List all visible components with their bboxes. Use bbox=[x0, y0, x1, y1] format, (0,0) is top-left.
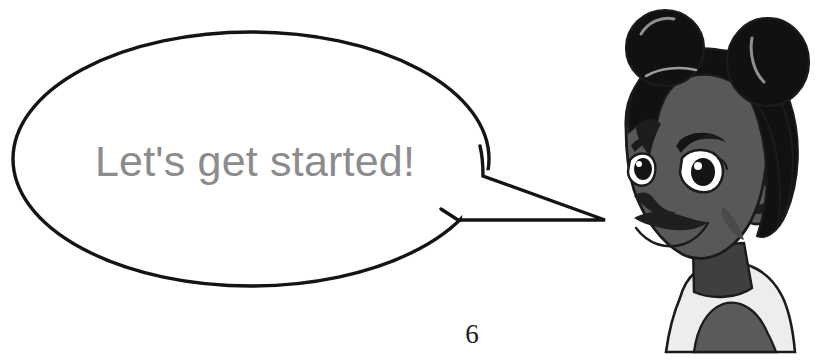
character-pupil-right bbox=[691, 158, 715, 186]
character-pupil-left bbox=[634, 158, 652, 180]
page-canvas: Let's get started! 6 bbox=[0, 0, 839, 360]
character-hair-bun-right bbox=[727, 18, 809, 106]
character-illustration bbox=[626, 10, 809, 352]
speech-bubble-text: Let's get started! bbox=[60, 137, 450, 185]
character-hair-bun-left bbox=[626, 10, 704, 86]
character-eye-highlight-right bbox=[694, 162, 702, 170]
page-number: 6 bbox=[440, 318, 504, 350]
character-eye-highlight-left bbox=[636, 161, 642, 167]
